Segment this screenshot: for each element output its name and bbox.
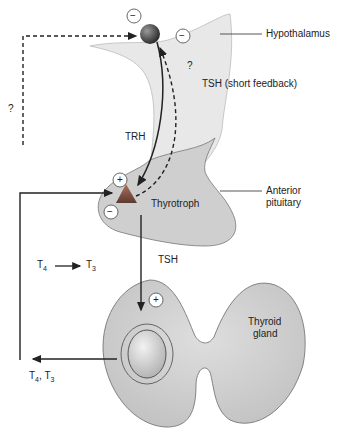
hpt-axis-diagram: − − + − + Hypothalamus ? TSH (short feed… — [0, 0, 338, 432]
diagram-canvas — [0, 0, 338, 432]
inhibit-sign-thyrotroph: − — [107, 206, 113, 218]
t3-conversion-label: T3 — [86, 259, 96, 272]
t4-to-t3-conversion-label: T4 — [37, 259, 47, 272]
anterior-pituitary-shape — [98, 138, 236, 246]
t4-subscript: 4 — [43, 265, 47, 272]
trh-neuron-icon — [140, 24, 160, 44]
output-t4-subscript: 4 — [35, 376, 39, 383]
anterior-pituitary-label-line2: pituitary — [266, 197, 301, 209]
t4-t3-feedback-line — [20, 193, 112, 360]
t4-t3-output-label: T4, T3 — [29, 370, 54, 383]
thyrotroph-label: Thyrotroph — [151, 198, 199, 210]
anterior-pituitary-label-line1: Anterior — [266, 185, 301, 197]
output-t3-subscript: 3 — [51, 376, 55, 383]
t3-subscript: 3 — [92, 265, 96, 272]
trh-label: TRH — [125, 131, 146, 143]
thyroid-gland-label-line1: Thyroid — [248, 316, 281, 328]
tsh-label: TSH — [158, 254, 178, 266]
thyroid-gland-label-line2: gland — [253, 328, 277, 340]
inhibit-sign-right: − — [179, 30, 185, 42]
tsh-short-feedback-label: TSH (short feedback) — [202, 78, 297, 90]
hypothalamus-label: Hypothalamus — [266, 28, 330, 40]
output-t3-text: , T — [39, 370, 50, 381]
question-mark-long-feedback: ? — [8, 103, 14, 115]
stimulate-sign-thyrotroph: + — [117, 174, 123, 186]
stimulate-sign-thyroid: + — [153, 294, 159, 306]
hypothalamus-shape — [90, 14, 232, 178]
question-mark-short-feedback: ? — [187, 60, 193, 72]
inhibit-sign-top: − — [130, 10, 136, 22]
follicle-inner — [128, 330, 166, 378]
